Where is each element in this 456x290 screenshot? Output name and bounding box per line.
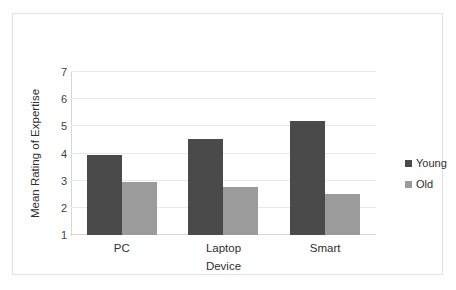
- bar-laptop-young[interactable]: [188, 139, 223, 235]
- bar-laptop-old[interactable]: [223, 187, 258, 235]
- plot-area: [71, 72, 376, 235]
- y-axis-title: Mean Rating of Expertise: [27, 72, 43, 235]
- x-tick-label-pc: PC: [71, 240, 173, 256]
- x-axis-tick-labels: PCLaptopSmart: [71, 240, 376, 256]
- bar-group-smart: [274, 72, 376, 235]
- legend-item-old[interactable]: Old: [405, 176, 456, 193]
- y-tick-label-1: 1: [45, 230, 67, 241]
- bar-pc-young[interactable]: [87, 155, 122, 235]
- y-tick-label-4: 4: [45, 148, 67, 159]
- chart-legend: YoungOld: [405, 155, 456, 197]
- legend-label-old: Old: [416, 179, 433, 190]
- bar-group-pc: [71, 72, 173, 235]
- x-axis-title: Device: [71, 258, 376, 274]
- bar-pc-old[interactable]: [122, 182, 157, 235]
- legend-swatch-icon-young: [405, 160, 412, 167]
- x-tick-label-laptop: Laptop: [173, 240, 275, 256]
- bar-group-laptop: [173, 72, 275, 235]
- y-tick-label-3: 3: [45, 175, 67, 186]
- y-tick-label-7: 7: [45, 67, 67, 78]
- y-tick-label-2: 2: [45, 202, 67, 213]
- y-tick-label-5: 5: [45, 121, 67, 132]
- legend-swatch-icon-old: [405, 181, 412, 188]
- bar-smart-young[interactable]: [290, 121, 325, 235]
- chart-frame: Mean Rating of Expertise 1234567 PCLapto…: [12, 13, 443, 275]
- bar-chart: Mean Rating of Expertise 1234567 PCLapto…: [0, 0, 456, 290]
- legend-item-young[interactable]: Young: [405, 155, 456, 172]
- bar-smart-old[interactable]: [325, 194, 360, 235]
- y-tick-label-6: 6: [45, 94, 67, 105]
- legend-label-young: Young: [416, 158, 447, 169]
- x-tick-label-smart: Smart: [274, 240, 376, 256]
- y-axis-tick-labels: 1234567: [43, 72, 67, 235]
